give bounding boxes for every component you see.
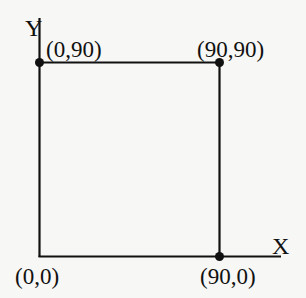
label-bottom-right: (90,0) <box>200 264 256 289</box>
label-top-right: (90,90) <box>197 37 264 62</box>
point-top-left <box>35 58 44 67</box>
coordinate-diagram: Y X (0,90) (90,90) (0,0) (90,0) <box>0 0 306 298</box>
point-bottom-right <box>215 252 224 261</box>
label-origin: (0,0) <box>15 264 59 289</box>
label-top-left: (0,90) <box>46 37 102 62</box>
y-axis-label: Y <box>25 15 42 41</box>
x-axis-label: X <box>272 233 289 259</box>
